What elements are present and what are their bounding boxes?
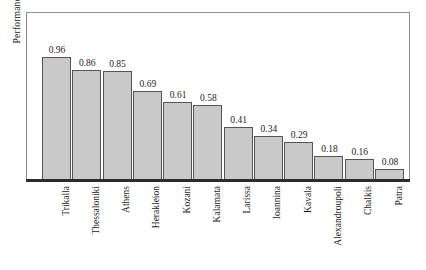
x-axis-tick-label: Patra bbox=[394, 166, 404, 186]
bar-value-label: 0.29 bbox=[281, 130, 317, 140]
x-axis-tick-label: Kavala bbox=[303, 159, 313, 186]
bar-value-label: 0.16 bbox=[342, 147, 378, 157]
x-label-slot: Kavala bbox=[284, 184, 313, 268]
bar-value-label: 0.85 bbox=[100, 59, 136, 69]
x-label-slot: Trikalla bbox=[42, 184, 71, 268]
bar-value-label: 0.08 bbox=[372, 157, 408, 167]
bar-value-label: 0.69 bbox=[130, 79, 166, 89]
x-axis-tick-label: Chalkis bbox=[363, 157, 373, 186]
x-axis-tick-label: Kalamata bbox=[212, 150, 222, 186]
bar-value-label: 0.96 bbox=[39, 45, 75, 55]
bar-slot: 0.85 bbox=[103, 12, 132, 179]
bar-slot: 0.16 bbox=[345, 12, 374, 179]
bar-slot: 0.41 bbox=[224, 12, 253, 179]
bar-slot: 0.29 bbox=[284, 12, 313, 179]
x-axis-tick-label: Kozani bbox=[182, 159, 192, 186]
x-label-slot: Herakleion bbox=[133, 184, 162, 268]
x-axis-tick-label: Herakleion bbox=[151, 144, 161, 186]
x-axis-tick-label: Thessaloniki bbox=[91, 137, 101, 186]
x-axis-tick-label: Ioannina bbox=[272, 153, 282, 186]
x-axis-tick-label: Alexandroupoli bbox=[333, 126, 343, 186]
x-axis-tick-label: Athens bbox=[121, 159, 131, 186]
x-label-slot: Kozani bbox=[163, 184, 192, 268]
x-axis-tick-label: Trikalla bbox=[61, 156, 71, 186]
bar-value-label: 0.58 bbox=[190, 93, 226, 103]
bar-slot: 0.08 bbox=[375, 12, 404, 179]
x-label-slot: Patra bbox=[375, 184, 404, 268]
x-label-slot: Alexandroupoli bbox=[314, 184, 343, 268]
bar-chart-figure: Performance 0.960.860.850.690.610.580.41… bbox=[0, 0, 426, 270]
x-label-slot: Thessaloniki bbox=[72, 184, 101, 268]
x-label-slot: Ioannina bbox=[254, 184, 283, 268]
x-label-slot: Chalkis bbox=[345, 184, 374, 268]
bar-slot: 0.96 bbox=[42, 12, 71, 179]
x-label-slot: Athens bbox=[103, 184, 132, 268]
bar-slot: 0.61 bbox=[163, 12, 192, 179]
x-axis-tick-label: Larissa bbox=[242, 159, 252, 186]
x-label-slot: Kalamata bbox=[193, 184, 222, 268]
x-axis-labels: TrikallaThessalonikiAthensHerakleionKoza… bbox=[26, 184, 410, 268]
x-label-slot: Larissa bbox=[224, 184, 253, 268]
